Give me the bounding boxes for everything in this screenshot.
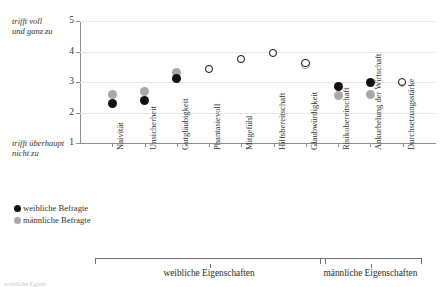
data-point-female [269, 49, 277, 57]
x-tick-mark [241, 143, 242, 147]
figure-caption: weibliche Eigens [4, 280, 46, 287]
legend-item-female: weibliche Befragte [14, 203, 91, 215]
x-axis-category-label: Ankurbelung der Wirtschaft [374, 54, 383, 150]
x-axis-category-label: Risikobereitschaft [342, 87, 351, 150]
y-axis-top-label-line1: trifft voll [12, 16, 53, 26]
legend-dot-male-icon [14, 217, 21, 224]
x-axis-category-label: Unsicherheit [149, 106, 158, 150]
x-tick-mark [209, 143, 210, 147]
group-label: männliche Eigenschaften [320, 268, 420, 278]
x-axis-category-label: Phantasievoll [213, 104, 222, 150]
y-axis-bottom-label: trifft überhaupt nicht zu [12, 138, 64, 158]
x-tick-mark [338, 143, 339, 147]
y-tick-label: 3 [58, 77, 74, 87]
y-gridline [80, 21, 435, 22]
y-axis-bottom-label-line2: nicht zu [12, 148, 64, 158]
group-bracket [95, 258, 326, 264]
y-tick-mark [76, 113, 80, 114]
y-gridline [80, 52, 435, 53]
legend-item-male: männliche Befragte [14, 215, 91, 227]
data-point-female [205, 65, 213, 73]
legend-dot-female-icon [14, 205, 21, 212]
y-tick-mark [76, 52, 80, 53]
x-axis-category-label: Gutgläubigkeit [181, 98, 190, 150]
group-bracket [320, 258, 422, 264]
x-tick-mark [370, 143, 371, 147]
chart-figure: trifft voll und ganz zu trifft überhaupt… [0, 0, 440, 287]
y-tick-mark [76, 82, 80, 83]
y-tick-mark [76, 143, 80, 144]
x-axis-category-label: Naivität [116, 122, 125, 150]
x-axis-category-label: Mitgefühl [245, 116, 254, 150]
y-axis-top-label: trifft voll und ganz zu [12, 16, 53, 36]
x-axis-category-label: Durchsetzungsstärke [407, 78, 416, 150]
x-axis-category-label: Glaubwürdigkeit [310, 92, 319, 150]
x-tick-mark [177, 143, 178, 147]
x-tick-mark [306, 143, 307, 147]
data-point-male [108, 90, 117, 99]
data-point-female [237, 55, 245, 63]
y-axis-bottom-label-line1: trifft überhaupt [12, 138, 64, 148]
legend-label-female: weibliche Befragte [23, 203, 88, 215]
x-axis-category-label: Hilfsbereitschaft [278, 93, 287, 150]
group-label: weibliche Eigenschaften [95, 268, 324, 278]
x-tick-mark [403, 143, 404, 147]
y-tick-label: 2 [58, 108, 74, 118]
x-tick-mark [145, 143, 146, 147]
x-tick-mark [274, 143, 275, 147]
data-point-male [140, 87, 149, 96]
y-tick-label: 1 [58, 138, 74, 148]
y-tick-label: 4 [58, 47, 74, 57]
y-tick-label: 5 [58, 16, 74, 26]
data-point-female [140, 96, 149, 105]
legend-label-male: männliche Befragte [23, 215, 91, 227]
data-point-female [108, 99, 117, 108]
y-tick-mark [76, 21, 80, 22]
y-axis-top-label-line2: und ganz zu [12, 26, 53, 36]
data-point-female [301, 59, 309, 67]
legend: weibliche Befragte männliche Befragte [14, 203, 91, 226]
x-tick-mark [112, 143, 113, 147]
